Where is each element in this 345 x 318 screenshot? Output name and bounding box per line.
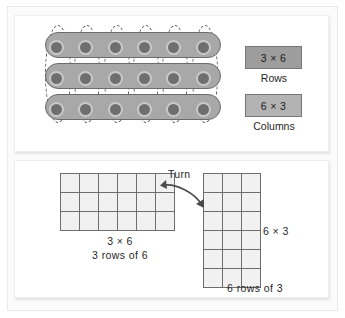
grid-cell: [99, 212, 118, 231]
row-group-band: [45, 94, 221, 120]
turn-arrow-icon: [160, 178, 208, 212]
label-box-columns: 6 × 3: [245, 94, 302, 117]
grid-cell: [242, 174, 261, 193]
grid-cell: [118, 212, 137, 231]
grid-3x6-description: 3 rows of 6: [50, 249, 190, 261]
grid-cell: [99, 174, 118, 193]
caption-columns: Columns: [234, 120, 314, 132]
grid-cell: [61, 193, 80, 212]
grid-cell: [242, 212, 261, 231]
grid-cell: [223, 212, 242, 231]
grid-3x6-equation: 3 × 6: [50, 235, 190, 247]
grid-cell: [242, 250, 261, 269]
grid-cell: [61, 212, 80, 231]
array-dot: [137, 71, 152, 86]
grid-cell: [156, 212, 175, 231]
label-box-rows-text: 3 × 6: [261, 52, 287, 64]
grid-cell: [242, 231, 261, 250]
array-dot: [49, 102, 64, 117]
label-box-rows: 3 × 6: [245, 46, 302, 69]
array-dot: [108, 71, 123, 86]
dot-array: [44, 29, 222, 121]
grid-cell: [80, 193, 99, 212]
grid-cell: [80, 212, 99, 231]
array-dot: [49, 71, 64, 86]
grid-cell: [61, 174, 80, 193]
grid-6x3-description: 6 rows of 3: [185, 282, 325, 294]
grid-3x6: [60, 173, 175, 231]
grid-cell: [204, 250, 223, 269]
grid-cell: [99, 193, 118, 212]
grid-cell: [223, 250, 242, 269]
grid-cell: [204, 212, 223, 231]
grid-cell: [118, 174, 137, 193]
row-group-band: [45, 32, 221, 58]
grid-cell: [223, 193, 242, 212]
array-dot: [196, 102, 211, 117]
array-dot: [196, 71, 211, 86]
grid-cell: [137, 193, 156, 212]
grid-cell: [223, 231, 242, 250]
array-dot: [137, 102, 152, 117]
grid-cell: [242, 193, 261, 212]
grid-6x3-equation: 6 × 3: [263, 225, 323, 237]
label-box-columns-text: 6 × 3: [261, 100, 287, 112]
array-dot: [108, 102, 123, 117]
grid-cell: [137, 174, 156, 193]
grid-cell: [80, 174, 99, 193]
diagram-screen: 3 × 6 Rows 6 × 3 Columns 3 × 6 3 rows of…: [0, 0, 345, 318]
grid-6x3: [203, 173, 261, 288]
array-dot: [196, 40, 211, 55]
array-dot: [49, 40, 64, 55]
row-group-band: [45, 63, 221, 89]
grid-cell: [118, 193, 137, 212]
grid-cell: [204, 231, 223, 250]
array-dot: [137, 40, 152, 55]
caption-rows: Rows: [234, 72, 314, 84]
grid-cell: [223, 174, 242, 193]
grid-cell: [137, 212, 156, 231]
array-dot: [108, 40, 123, 55]
